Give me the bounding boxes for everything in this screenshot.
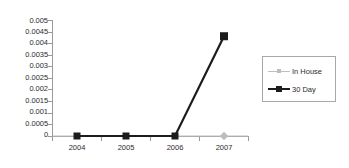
y-tick-label: 0.0045 xyxy=(0,28,48,36)
chart-legend: In House 30 Day xyxy=(262,56,336,102)
y-axis-line xyxy=(52,20,53,137)
y-tick-label: 0.002 xyxy=(0,85,48,93)
y-tick-mark xyxy=(48,113,52,114)
x-tick-mark xyxy=(101,137,102,141)
y-tick-label: 0.0025 xyxy=(0,74,48,82)
series-line-30-day xyxy=(77,36,224,136)
y-tick-mark xyxy=(48,55,52,56)
y-tick-label: 0.005 xyxy=(0,17,48,25)
data-point-30-day-2007 xyxy=(220,32,228,40)
legend-item-in-house: In House xyxy=(268,66,322,76)
y-tick-mark xyxy=(48,32,52,33)
y-tick-label: 0.004 xyxy=(0,39,48,47)
y-tick-mark xyxy=(48,124,52,125)
legend-label-in-house: In House xyxy=(292,67,322,76)
line-chart: 0.005 0.0045 0.004 0.0035 0.003 0.0025 0… xyxy=(0,0,349,168)
x-tick-mark xyxy=(199,137,200,141)
y-tick-mark xyxy=(48,78,52,79)
y-tick-label: 0.0015 xyxy=(0,97,48,105)
y-tick-label: 0 xyxy=(0,131,48,139)
x-tick-label: 2007 xyxy=(216,143,233,152)
y-tick-mark xyxy=(48,89,52,90)
x-tick-label: 2004 xyxy=(69,143,86,152)
y-tick-mark xyxy=(48,43,52,44)
y-tick-mark xyxy=(48,66,52,67)
y-tick-label: 0.001 xyxy=(0,108,48,116)
y-tick-label: 0.003 xyxy=(0,62,48,70)
legend-item-30-day: 30 Day xyxy=(268,84,316,94)
x-tick-mark xyxy=(248,137,249,141)
y-tick-mark xyxy=(48,20,52,21)
legend-marker-30-day-icon xyxy=(268,85,290,94)
y-tick-label: 0.0005 xyxy=(0,120,48,128)
y-axis-labels: 0.005 0.0045 0.004 0.0035 0.003 0.0025 0… xyxy=(0,0,48,168)
y-tick-label: 0.0035 xyxy=(0,51,48,59)
x-tick-label: 2005 xyxy=(118,143,135,152)
legend-marker-in-house-icon xyxy=(268,67,290,76)
x-tick-mark xyxy=(52,137,53,141)
x-tick-mark xyxy=(150,137,151,141)
y-tick-mark xyxy=(48,101,52,102)
x-tick-label: 2006 xyxy=(167,143,184,152)
legend-label-30-day: 30 Day xyxy=(292,85,316,94)
